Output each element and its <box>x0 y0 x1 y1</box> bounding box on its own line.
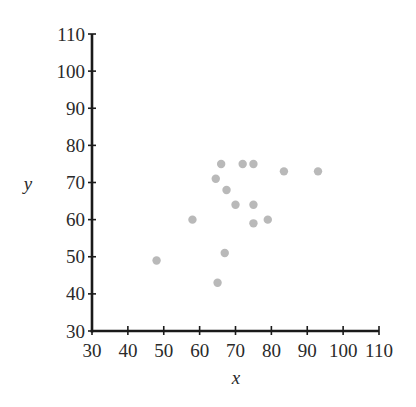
x-tick-label: 80 <box>262 340 281 361</box>
y-tick-label: 70 <box>66 172 85 193</box>
y-tick-label: 60 <box>66 209 85 230</box>
data-point <box>217 160 225 168</box>
data-point <box>212 175 220 183</box>
data-point <box>280 167 288 175</box>
data-point <box>231 201 239 209</box>
data-point <box>213 279 221 287</box>
data-point <box>249 160 257 168</box>
data-point <box>222 186 230 194</box>
data-point <box>314 167 322 175</box>
data-points <box>152 160 322 287</box>
y-axis-title: y <box>22 173 33 194</box>
x-axis: 30405060708090100110 <box>83 326 393 361</box>
x-tick-label: 60 <box>190 340 209 361</box>
data-point <box>188 215 196 223</box>
data-point <box>238 160 246 168</box>
y-tick-label: 80 <box>66 135 85 156</box>
y-tick-label: 40 <box>66 283 85 304</box>
x-axis-title: x <box>231 367 241 388</box>
data-point <box>249 201 257 209</box>
x-tick-label: 70 <box>226 340 245 361</box>
y-tick-label: 100 <box>57 61 86 82</box>
x-tick-label: 90 <box>298 340 317 361</box>
scatter-plot: 30405060708090100110 3040506070809010011… <box>0 0 416 407</box>
y-axis: 30405060708090100110 <box>57 24 97 342</box>
x-tick-label: 50 <box>154 340 173 361</box>
data-point <box>152 256 160 264</box>
y-tick-label: 90 <box>66 98 85 119</box>
x-tick-label: 40 <box>118 340 137 361</box>
y-tick-label: 110 <box>57 24 85 45</box>
data-point <box>264 215 272 223</box>
y-tick-label: 50 <box>66 246 85 267</box>
x-tick-label: 110 <box>365 340 393 361</box>
x-tick-label: 100 <box>329 340 358 361</box>
x-tick-label: 30 <box>83 340 102 361</box>
y-tick-label: 30 <box>66 321 85 342</box>
data-point <box>249 219 257 227</box>
data-point <box>221 249 229 257</box>
